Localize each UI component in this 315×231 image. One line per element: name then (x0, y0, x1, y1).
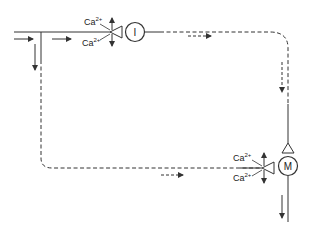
svg-text:I: I (134, 27, 137, 38)
bottom-upper-ca-label: Ca2+ (233, 152, 252, 163)
node-m: M (279, 157, 298, 176)
calcium-flow-diagram: Ca2+ Ca2+ I Ca2+ Ca2+ M (0, 0, 315, 231)
node-i: I (126, 23, 145, 42)
left-dashed-path (41, 60, 262, 168)
receptor-triangle-icon (282, 143, 294, 153)
bottom-lower-ca-label: Ca2+ (233, 172, 252, 183)
svg-text:M: M (284, 161, 292, 172)
top-lower-ca-label: Ca2+ (82, 37, 101, 48)
top-upper-ca-label: Ca2+ (84, 16, 103, 27)
top-dashed-path (160, 32, 288, 104)
